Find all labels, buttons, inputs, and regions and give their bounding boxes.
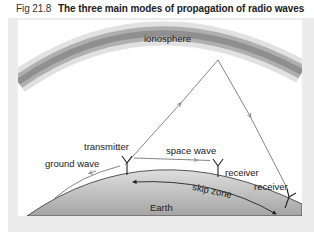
figure-title: The three main modes of propagation of r… bbox=[58, 3, 304, 14]
space-wave bbox=[134, 158, 210, 161]
receiver-label-1: receiver bbox=[225, 168, 259, 178]
space-wave-label: space wave bbox=[166, 146, 216, 156]
transmitter-antenna-icon bbox=[122, 156, 132, 175]
ground-wave-label: ground wave bbox=[45, 159, 99, 169]
figure-number: Fig 21.8 bbox=[16, 3, 51, 14]
earth-label: Earth bbox=[150, 203, 173, 213]
receiver-label-2: receiver bbox=[254, 182, 288, 192]
transmitter-label: transmitter bbox=[84, 142, 129, 152]
ionosphere-label: ionosphere bbox=[144, 34, 191, 44]
figure-caption: Fig 21.8 The three main modes of propaga… bbox=[16, 3, 304, 14]
